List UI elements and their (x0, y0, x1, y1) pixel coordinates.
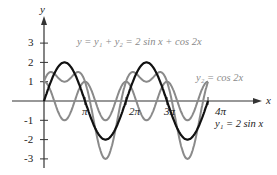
y-tick-label: 2 (28, 57, 34, 68)
x-tick-label: 2π (129, 106, 140, 117)
y-tick-label: -2 (24, 134, 33, 145)
x-axis-arrow-icon (253, 98, 262, 104)
y-tick-label: -3 (24, 153, 33, 164)
x-axis-label: x (266, 95, 271, 106)
y-tick-label: 1 (28, 76, 34, 87)
y-axis-arrow-icon (41, 16, 47, 25)
y-tick-label: 3 (28, 37, 34, 48)
chart-plot-area (0, 0, 277, 175)
y-axis-label: y (40, 4, 45, 15)
x-tick-label: 3π (164, 106, 175, 117)
y-tick-label: -1 (24, 115, 33, 126)
y1-series-label: y₁ = 2 sin x (215, 119, 263, 130)
sum-series-label: y = y₁ + y₂ = 2 sin x + cos 2x (77, 37, 202, 48)
x-tick-label: 4π (215, 106, 226, 117)
y2-series-label: y₂ = cos 2x (196, 73, 243, 84)
x-tick-label: π (82, 106, 88, 117)
